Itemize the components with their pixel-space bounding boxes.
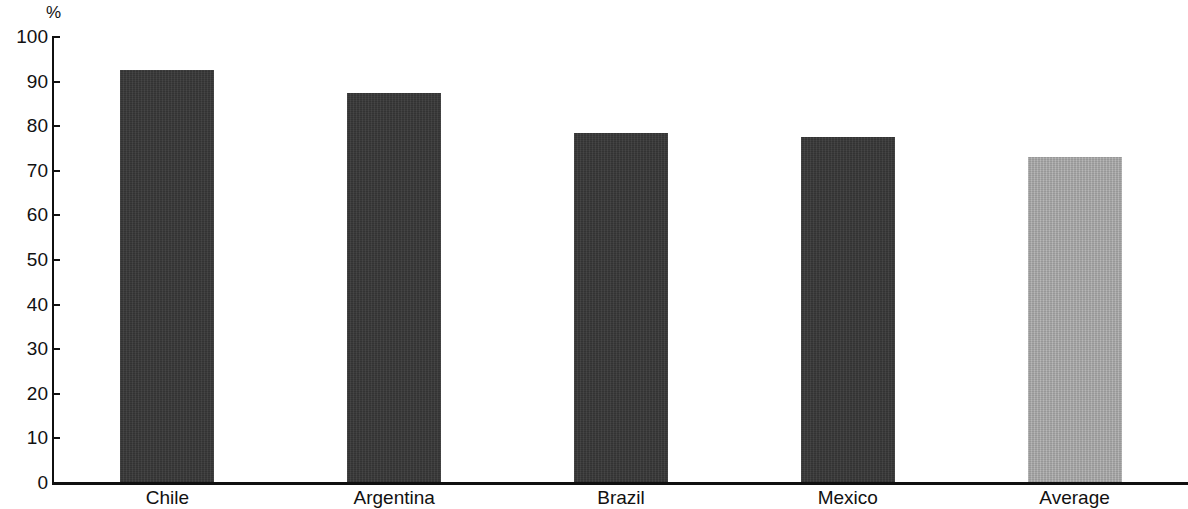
x-axis-label-argentina: Argentina bbox=[281, 486, 508, 509]
bar-brazil bbox=[574, 133, 668, 483]
bar-group bbox=[734, 37, 961, 483]
x-axis-category-labels: ChileArgentinaBrazilMexicoAverage bbox=[54, 486, 1188, 509]
y-axis-tick-label: 0 bbox=[2, 473, 48, 492]
x-axis-label-chile: Chile bbox=[54, 486, 281, 509]
bar-group bbox=[961, 37, 1188, 483]
y-axis-unit-label: % bbox=[46, 4, 61, 21]
bar-mexico bbox=[801, 137, 895, 483]
y-axis-tick-label: 70 bbox=[2, 161, 48, 180]
bar-chile bbox=[120, 70, 214, 483]
bar-group bbox=[54, 37, 281, 483]
bar-chart: % 1009080706050403020100 ChileArgentinaB… bbox=[0, 0, 1188, 509]
y-axis-tick-label: 60 bbox=[2, 205, 48, 224]
x-axis-label-brazil: Brazil bbox=[508, 486, 735, 509]
y-axis-tick-label: 30 bbox=[2, 339, 48, 358]
y-axis-tick-label: 90 bbox=[2, 72, 48, 91]
bar-average bbox=[1028, 157, 1122, 483]
y-axis-tick-label: 10 bbox=[2, 428, 48, 447]
y-axis-tick-label: 80 bbox=[2, 116, 48, 135]
plot-area bbox=[54, 37, 1188, 483]
y-axis-tick-label: 50 bbox=[2, 250, 48, 269]
x-axis-label-average: Average bbox=[961, 486, 1188, 509]
x-axis-label-mexico: Mexico bbox=[734, 486, 961, 509]
y-axis-tick-label: 100 bbox=[2, 27, 48, 46]
x-axis-line bbox=[52, 482, 1188, 485]
bar-group bbox=[508, 37, 735, 483]
bar-group bbox=[281, 37, 508, 483]
y-axis-tick-label: 20 bbox=[2, 384, 48, 403]
bar-argentina bbox=[347, 93, 441, 483]
y-axis-tick-label: 40 bbox=[2, 295, 48, 314]
